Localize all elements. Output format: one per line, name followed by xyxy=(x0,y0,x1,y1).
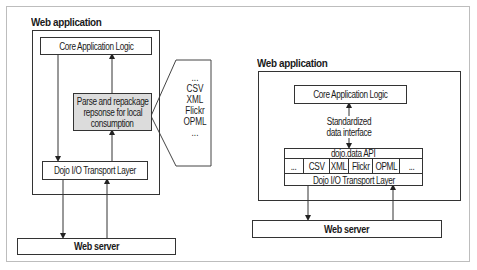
left-transport-layer-box: Dojo I/O Transport Layer xyxy=(42,161,148,180)
left-core-logic-label: Core Application Logic xyxy=(59,41,133,52)
parse-line-1: Parse and repackage xyxy=(77,96,149,107)
left-web-server-label: Web server xyxy=(74,241,119,252)
format-cell-csv: CSV xyxy=(304,158,330,174)
format-cell-label: ... xyxy=(409,161,415,172)
format-cell-ellipsis-right: ... xyxy=(400,158,423,174)
format-ellipsis-top: ... xyxy=(183,72,208,83)
format-xml: XML xyxy=(183,94,208,105)
left-web-server-box: Web server xyxy=(17,238,176,255)
right-web-server-label: Web server xyxy=(324,224,369,235)
format-csv: CSV xyxy=(183,83,208,94)
format-cell-xml: XML xyxy=(330,158,349,174)
right-title: Web application xyxy=(257,57,327,69)
right-core-logic-label: Core Application Logic xyxy=(313,89,387,100)
format-cell-label: XML xyxy=(331,161,347,172)
format-cell-opml: OPML xyxy=(373,158,400,174)
right-transport-layer-row: Dojo I/O Transport Layer xyxy=(284,174,423,186)
left-title: Web application xyxy=(31,16,101,28)
format-cell-label: ... xyxy=(291,161,297,172)
right-web-server-box: Web server xyxy=(252,220,442,238)
right-transport-label: Dojo I/O Transport Layer xyxy=(313,175,395,186)
format-opml: OPML xyxy=(183,116,208,127)
dojo-data-api-row: dojo.data API xyxy=(284,148,423,158)
left-core-logic-box: Core Application Logic xyxy=(40,37,152,55)
right-core-logic-box: Core Application Logic xyxy=(294,85,407,104)
data-interface-line-2: data interface xyxy=(320,127,377,138)
format-cell-flickr: Flickr xyxy=(349,158,373,174)
data-interface-line-1: Standardized xyxy=(320,116,377,127)
format-cell-label: CSV xyxy=(309,161,325,172)
parse-repackage-box: Parse and repackage repsonse for local c… xyxy=(73,93,152,131)
format-cell-label: Flickr xyxy=(352,161,370,172)
format-cell-label: OPML xyxy=(375,161,397,172)
parse-line-2: repsonse for local xyxy=(83,107,142,118)
left-transport-label: Dojo I/O Transport Layer xyxy=(54,165,136,176)
format-callout: ... CSV XML Flickr OPML ... xyxy=(183,72,208,138)
format-flickr: Flickr xyxy=(183,105,208,116)
format-cell-ellipsis-left: ... xyxy=(284,158,304,174)
parse-line-3: consumption xyxy=(91,118,134,129)
data-interface-label: Standardized data interface xyxy=(314,116,384,138)
dojo-data-api-label: dojo.data API xyxy=(331,148,376,159)
format-ellipsis-bottom: ... xyxy=(183,127,208,138)
